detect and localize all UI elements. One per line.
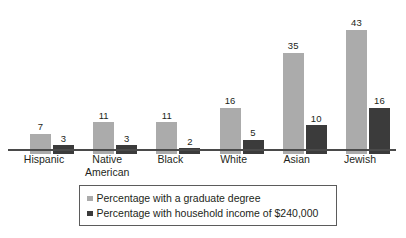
bar-item: 3: [116, 8, 137, 154]
bar-group: 3510: [275, 8, 335, 154]
bar-value-label: 7: [38, 121, 43, 132]
bar-value-label: 3: [124, 133, 129, 144]
category-axis-labels: HispanicNative AmericanBlackWhiteAsianJe…: [14, 153, 390, 178]
bar-group: 165: [212, 8, 272, 154]
bar-item: 7: [30, 8, 51, 154]
bar-group: 73: [22, 8, 82, 154]
legend-item-graduate-degree: Percentage with a graduate degree: [87, 191, 336, 206]
bar-value-label: 11: [162, 110, 172, 121]
bar-item: 16: [220, 8, 241, 154]
category-label: White: [204, 153, 264, 178]
bar-groups: 7311311216535104316: [22, 8, 398, 154]
bar-item: 10: [306, 8, 327, 154]
bar-series-1: [30, 134, 51, 154]
bar-value-label: 16: [374, 95, 385, 106]
bar-value-label: 35: [288, 40, 299, 51]
bar-value-label: 10: [311, 113, 322, 124]
bar-chart: 7311311216535104316 HispanicNative Ameri…: [0, 0, 406, 238]
bar-group: 113: [85, 8, 145, 154]
category-label: Black: [140, 153, 200, 178]
legend-item-household-income: Percentage with household income of $240…: [87, 206, 336, 221]
bar-item: 16: [369, 8, 390, 154]
plot-area: 7311311216535104316: [8, 4, 396, 150]
bar-value-label: 16: [225, 95, 236, 106]
bar-series-2: [243, 140, 264, 155]
bar-series-2: [369, 108, 390, 154]
legend-label-series-2: Percentage with household income of $240…: [97, 207, 319, 220]
legend-swatch-icon-series-1: [87, 196, 93, 202]
bar-item: 2: [179, 8, 200, 154]
bar-item: 3: [53, 8, 74, 154]
bar-item: 11: [156, 8, 177, 154]
bar-item: 43: [346, 8, 367, 154]
bar-series-1: [220, 108, 241, 154]
bar-value-label: 43: [351, 17, 362, 28]
bar-item: 5: [243, 8, 264, 154]
legend-swatch-icon-series-2: [87, 211, 93, 217]
bar-group: 4316: [338, 8, 398, 154]
x-axis-line: [8, 149, 396, 151]
bar-value-label: 5: [250, 127, 255, 138]
category-label: Native American: [77, 153, 137, 178]
bar-value-label: 2: [187, 136, 192, 147]
bar-value-label: 11: [99, 110, 109, 121]
category-label: Hispanic: [14, 153, 74, 178]
category-label: Asian: [267, 153, 327, 178]
bar-item: 35: [283, 8, 304, 154]
chart-legend: Percentage with a graduate degree Percen…: [79, 185, 337, 226]
bar-item: 11: [93, 8, 114, 154]
bar-series-1: [283, 53, 304, 154]
bar-group: 112: [148, 8, 208, 154]
legend-label-series-1: Percentage with a graduate degree: [97, 192, 261, 205]
bar-series-1: [346, 30, 367, 154]
bar-value-label: 3: [61, 133, 66, 144]
category-label: Jewish: [330, 153, 390, 178]
